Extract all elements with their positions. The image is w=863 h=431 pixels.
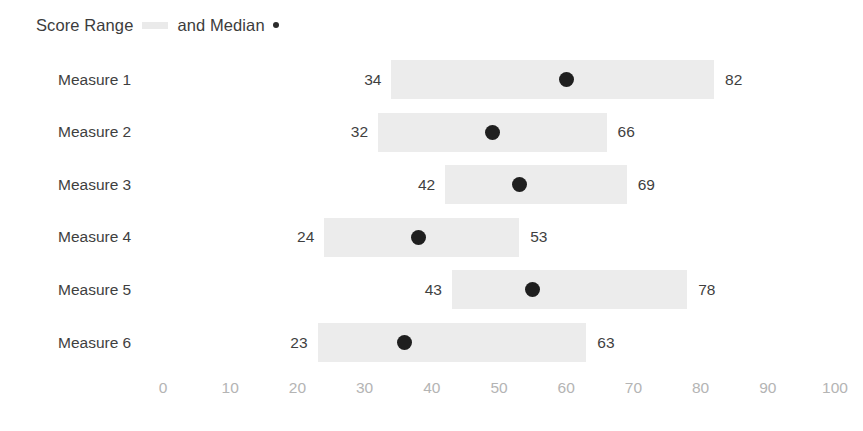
x-axis-tick-label: 90 (759, 379, 776, 397)
score-range-bar[interactable] (391, 60, 714, 99)
chart-row: Measure 42453 (0, 218, 863, 257)
score-range-bar[interactable] (445, 165, 626, 204)
score-range-bar[interactable] (318, 323, 587, 362)
row-category-label: Measure 6 (58, 334, 131, 352)
x-axis-tick-label: 60 (558, 379, 575, 397)
range-high-value-label: 53 (530, 228, 572, 246)
score-range-bar[interactable] (452, 270, 687, 309)
chart-row: Measure 23266 (0, 113, 863, 152)
x-axis-tick-label: 40 (423, 379, 440, 397)
range-high-value-label: 78 (698, 281, 740, 299)
chart-row: Measure 54378 (0, 270, 863, 309)
chart-row: Measure 62363 (0, 323, 863, 362)
range-low-value-label: 32 (326, 123, 368, 141)
x-axis-tick-label: 0 (159, 379, 168, 397)
x-axis-tick-label: 20 (289, 379, 306, 397)
range-high-value-label: 63 (597, 334, 639, 352)
row-category-label: Measure 1 (58, 71, 131, 89)
range-low-value-label: 42 (393, 176, 435, 194)
range-low-value-label: 24 (272, 228, 314, 246)
median-dot[interactable] (512, 177, 527, 192)
chart-row: Measure 13482 (0, 60, 863, 99)
x-axis: 0102030405060708090100 (0, 379, 863, 405)
x-axis-tick-label: 100 (822, 379, 848, 397)
range-low-value-label: 23 (266, 334, 308, 352)
chart-plot-area: Measure 13482Measure 23266Measure 34269M… (0, 0, 863, 431)
row-category-label: Measure 5 (58, 281, 131, 299)
row-category-label: Measure 4 (58, 228, 131, 246)
range-high-value-label: 69 (638, 176, 680, 194)
x-axis-tick-label: 70 (625, 379, 642, 397)
chart-row: Measure 34269 (0, 165, 863, 204)
median-dot[interactable] (485, 125, 500, 140)
x-axis-tick-label: 50 (490, 379, 507, 397)
median-dot[interactable] (559, 72, 574, 87)
row-category-label: Measure 2 (58, 123, 131, 141)
range-high-value-label: 66 (618, 123, 660, 141)
row-category-label: Measure 3 (58, 176, 131, 194)
range-low-value-label: 43 (400, 281, 442, 299)
median-dot[interactable] (411, 230, 426, 245)
x-axis-tick-label: 10 (222, 379, 239, 397)
range-low-value-label: 34 (339, 71, 381, 89)
x-axis-tick-label: 80 (692, 379, 709, 397)
range-high-value-label: 82 (725, 71, 767, 89)
x-axis-tick-label: 30 (356, 379, 373, 397)
